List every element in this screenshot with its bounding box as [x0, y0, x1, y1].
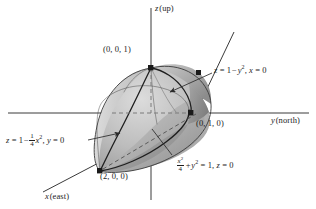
- point-label-200: (2, 0, 0): [100, 172, 128, 181]
- point-label-001: (0, 0, 1): [103, 45, 131, 54]
- marker-point-back-top: [196, 70, 201, 75]
- marker-point-010: [188, 110, 193, 115]
- point-label-010: (0, 1, 0): [196, 119, 224, 128]
- math-figure-3d-solid: z (up) y (north) x (east) (0, 0, 1) (0, …: [0, 0, 316, 209]
- equation-label-xz-parabola: z = 1 −14x2, y = 0: [6, 133, 64, 149]
- axis-label-y: y (north): [271, 116, 300, 125]
- marker-point-001: [148, 65, 153, 70]
- axis-label-x: x (east): [45, 192, 69, 201]
- figure-canvas: [0, 0, 316, 209]
- axis-label-z: z (up): [155, 4, 174, 13]
- solid-body: [94, 64, 211, 172]
- equation-label-yz-parabola: z = 1 − y2, x = 0: [214, 66, 267, 75]
- equation-label-base-ellipse: x24 + y2 = 1, z = 0: [176, 158, 234, 174]
